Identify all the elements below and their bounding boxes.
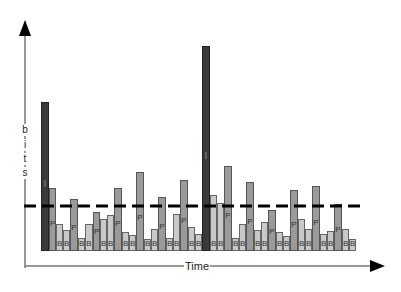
bitrate-diagram: |PBBPBBPBBPBBPBBPBBPBB|BBPBBPBBPBBPBBPBB… (0, 0, 401, 292)
average-line-layer (0, 0, 401, 292)
y-axis-letter: s (21, 167, 29, 179)
y-axis-letter: t (21, 153, 29, 165)
x-axis-label: Time (184, 260, 210, 272)
y-axis-letter: i (21, 139, 29, 151)
y-axis-letter: b (21, 124, 29, 136)
